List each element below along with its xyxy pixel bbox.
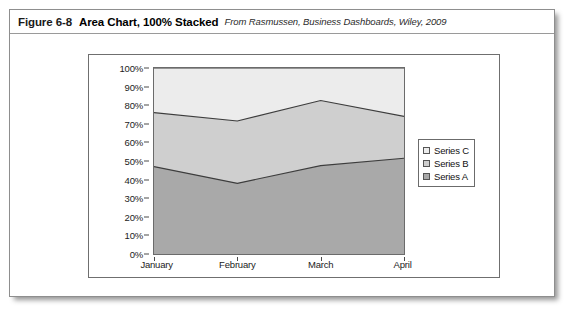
legend-label: Series C bbox=[434, 145, 469, 156]
y-tick-mark bbox=[144, 86, 149, 87]
figure-number: Figure 6-8 bbox=[18, 16, 72, 28]
legend-item-series-a[interactable]: Series A bbox=[423, 170, 469, 182]
x-tick-label: January bbox=[140, 259, 172, 270]
y-tick-label: 10% bbox=[125, 230, 143, 241]
y-tick-mark bbox=[144, 179, 149, 180]
x-tick-mark bbox=[237, 257, 238, 261]
x-tick-mark bbox=[154, 257, 155, 261]
y-tick-mark bbox=[144, 123, 149, 124]
y-tick-label: 50% bbox=[125, 156, 143, 167]
y-tick-mark bbox=[144, 68, 149, 69]
x-tick-mark bbox=[404, 257, 405, 261]
y-tick-label: 30% bbox=[125, 193, 143, 204]
legend-label: Series A bbox=[434, 171, 468, 182]
plot-area bbox=[153, 67, 405, 255]
y-tick-label: 60% bbox=[125, 137, 143, 148]
y-tick-label: 90% bbox=[125, 81, 143, 92]
y-tick-label: 70% bbox=[125, 118, 143, 129]
y-tick-mark bbox=[144, 198, 149, 199]
chart-container: 0%10%20%30%40%50%60%70%80%90%100% Januar… bbox=[88, 54, 500, 278]
x-tick-mark bbox=[321, 257, 322, 261]
x-axis: JanuaryFebruaryMarchApril bbox=[153, 257, 405, 275]
y-tick-mark bbox=[144, 235, 149, 236]
y-tick-mark bbox=[144, 216, 149, 217]
y-axis: 0%10%20%30%40%50%60%70%80%90%100% bbox=[89, 67, 149, 255]
legend-swatch-icon bbox=[423, 147, 430, 154]
legend-item-series-b[interactable]: Series B bbox=[423, 157, 469, 169]
figure-caption-bar: Figure 6-8 Area Chart, 100% Stacked From… bbox=[10, 10, 554, 34]
legend-swatch-icon bbox=[423, 173, 430, 180]
figure-frame: Figure 6-8 Area Chart, 100% Stacked From… bbox=[9, 9, 555, 297]
y-tick-mark bbox=[144, 254, 149, 255]
legend-item-series-c[interactable]: Series C bbox=[423, 144, 469, 156]
y-tick-mark bbox=[144, 142, 149, 143]
y-tick-label: 80% bbox=[125, 100, 143, 111]
legend-label: Series B bbox=[434, 158, 468, 169]
y-tick-mark bbox=[144, 161, 149, 162]
x-tick-label: April bbox=[394, 259, 412, 270]
chart-legend[interactable]: Series CSeries BSeries A bbox=[418, 139, 475, 187]
y-tick-label: 40% bbox=[125, 174, 143, 185]
y-tick-label: 0% bbox=[130, 249, 143, 260]
y-tick-mark bbox=[144, 105, 149, 106]
y-tick-label: 20% bbox=[125, 211, 143, 222]
y-tick-label: 100% bbox=[120, 63, 144, 74]
stacked-area-plot bbox=[154, 68, 404, 254]
figure-title: Area Chart, 100% Stacked bbox=[79, 16, 219, 28]
legend-swatch-icon bbox=[423, 160, 430, 167]
figure-source-credit: From Rasmussen, Business Dashboards, Wil… bbox=[224, 16, 446, 27]
